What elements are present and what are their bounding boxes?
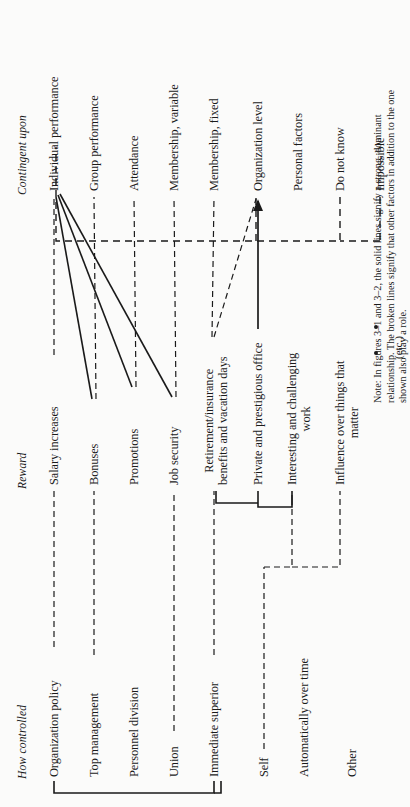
contingent-item-attendance[interactable]: Attendance bbox=[128, 136, 142, 191]
how-controlled-item-other[interactable]: Other bbox=[346, 749, 360, 777]
reward-item-job-security[interactable]: Job security bbox=[168, 427, 182, 485]
reward-item-promotions[interactable]: Promotions bbox=[128, 429, 142, 485]
contingent-item-membership-variable[interactable]: Membership, variable bbox=[168, 84, 182, 191]
link-job-security-to-membership-variable bbox=[174, 197, 176, 397]
route-self-to-rewards bbox=[264, 501, 292, 567]
reward-item-interesting-work[interactable]: Interesting and challenging work bbox=[286, 353, 313, 485]
reward-item-bonuses[interactable]: Bonuses bbox=[88, 444, 102, 485]
link-bonuses-to-individual-performance bbox=[56, 197, 92, 399]
reward-item-salary-increases[interactable]: Salary increases bbox=[48, 406, 62, 485]
link-promotions-to-individual-performance bbox=[58, 195, 132, 387]
contingent-item-membership-fixed[interactable]: Membership, fixed bbox=[208, 98, 222, 191]
contingent-item-individual-performance[interactable]: Individual performance bbox=[48, 77, 62, 191]
figure-note: Note: In figures 3–1 and 3–2, the solid … bbox=[372, 73, 410, 403]
reward-item-influence-over-things[interactable]: Influence over things that matter bbox=[334, 361, 361, 485]
how-controlled-item-union[interactable]: Union bbox=[168, 747, 182, 777]
bracket-organizational-control-stub bbox=[214, 781, 221, 793]
column-heading-reward: Reward bbox=[16, 452, 28, 489]
link-retirement-to-membership-fixed bbox=[212, 197, 214, 337]
contingent-item-do-not-know[interactable]: Do not know bbox=[334, 127, 348, 191]
bracket-organizational-control bbox=[54, 781, 214, 793]
how-controlled-item-personnel-division[interactable]: Personnel division bbox=[128, 687, 142, 777]
how-controlled-item-automatically-over-time[interactable]: Automatically over time bbox=[298, 658, 312, 777]
link-job-security-to-individual-performance bbox=[60, 194, 172, 397]
how-controlled-item-organization-policy[interactable]: Organization policy bbox=[48, 680, 62, 777]
column-heading-contingent-upon: Contingent upon bbox=[16, 115, 28, 195]
route-self-to-influence bbox=[292, 491, 340, 567]
bracket-retirement-benefits bbox=[216, 491, 258, 503]
link-bonuses-to-group-performance bbox=[94, 197, 96, 399]
link-retirement-to-organization-level bbox=[214, 199, 256, 337]
column-heading-how-controlled: How controlled bbox=[16, 705, 28, 779]
contingent-item-organization-level[interactable]: Organization level bbox=[252, 101, 266, 191]
reward-item-private-office[interactable]: Private and prestigious office bbox=[252, 343, 266, 485]
how-controlled-item-top-management[interactable]: Top management bbox=[88, 693, 102, 777]
link-promotions-to-attendance bbox=[134, 197, 136, 387]
contingent-item-group-performance[interactable]: Group performance bbox=[88, 95, 102, 191]
reward-item-retirement-benefits[interactable]: Retirement/insurance benefits and vacati… bbox=[203, 357, 230, 486]
bracket-private-office-interesting-work bbox=[258, 491, 292, 507]
how-controlled-item-self[interactable]: Self bbox=[258, 757, 272, 777]
contingent-item-personal-factors[interactable]: Personal factors bbox=[292, 113, 306, 191]
how-controlled-item-immediate-superior[interactable]: Immediate superior bbox=[208, 682, 222, 777]
